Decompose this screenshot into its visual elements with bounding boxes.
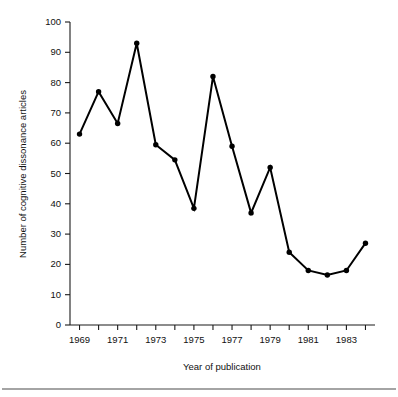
x-axis-ticks: 19691971197319751977197919811983 [69, 325, 366, 345]
data-point-marker [172, 157, 177, 162]
y-tick-label: 70 [50, 107, 61, 118]
x-tick-label: 1971 [107, 334, 128, 345]
y-tick-label: 40 [50, 198, 61, 209]
data-point-marker [344, 268, 349, 273]
data-point-marker [306, 268, 311, 273]
line-chart-plot: 0102030405060708090100 19691971197319751… [0, 0, 398, 397]
x-tick-label: 1979 [260, 334, 281, 345]
data-point-marker [77, 131, 82, 136]
data-series-line [80, 43, 366, 275]
data-point-marker [267, 165, 272, 170]
y-tick-label: 20 [50, 258, 61, 269]
y-tick-label: 80 [50, 77, 61, 88]
data-point-marker [191, 206, 196, 211]
x-tick-label: 1977 [221, 334, 242, 345]
data-point-markers [77, 41, 368, 278]
x-tick-label: 1969 [69, 334, 90, 345]
data-point-marker [210, 74, 215, 79]
x-axis-title: Year of publication [183, 361, 261, 372]
data-point-marker [229, 144, 234, 149]
data-point-marker [134, 41, 139, 46]
data-point-marker [287, 250, 292, 255]
data-point-marker [96, 89, 101, 94]
y-tick-label: 50 [50, 168, 61, 179]
data-point-marker [325, 272, 330, 277]
x-tick-label: 1973 [145, 334, 166, 345]
chart-figure: 0102030405060708090100 19691971197319751… [0, 0, 398, 397]
data-point-marker [153, 142, 158, 147]
x-tick-label: 1983 [336, 334, 357, 345]
x-tick-label: 1975 [183, 334, 204, 345]
y-axis-ticks: 0102030405060708090100 [45, 16, 70, 330]
x-tick-label: 1981 [298, 334, 319, 345]
data-point-marker [248, 210, 253, 215]
y-tick-label: 60 [50, 137, 61, 148]
y-axis-title: Number of cognitive dissonance articles [17, 90, 28, 258]
y-tick-label: 100 [45, 16, 61, 27]
data-point-marker [363, 240, 368, 245]
data-point-marker [115, 121, 120, 126]
y-tick-label: 30 [50, 228, 61, 239]
y-tick-label: 10 [50, 289, 61, 300]
y-tick-label: 90 [50, 46, 61, 57]
y-tick-label: 0 [56, 319, 61, 330]
